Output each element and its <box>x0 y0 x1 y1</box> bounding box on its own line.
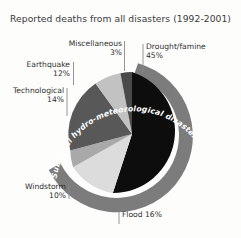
pie-chart: Sub-total hydro-meteorological disasters… <box>0 0 241 238</box>
label-windstorm-name: Windstorm <box>25 182 66 191</box>
pie-chart-svg: Sub-total hydro-meteorological disasters… <box>0 0 241 238</box>
label-windstorm-pct: 10% <box>4 192 66 201</box>
label-flood: Flood 16% <box>122 211 196 220</box>
label-earthquake: Earthquake 12% <box>8 61 70 78</box>
label-miscellaneous-pct: 3% <box>56 49 122 58</box>
label-earthquake-name: Earthquake <box>27 60 70 69</box>
label-earthquake-pct: 12% <box>8 70 70 79</box>
label-technological-name: Technological <box>13 86 64 95</box>
figure-root: Reported deaths from all disasters (1992… <box>0 0 241 238</box>
label-flood-text: Flood 16% <box>122 210 162 219</box>
label-miscellaneous: Miscellaneous 3% <box>56 40 122 57</box>
label-technological: Technological 14% <box>2 87 64 104</box>
label-miscellaneous-name: Miscellaneous <box>69 39 122 48</box>
label-drought-famine: Drought/famine 45% <box>146 43 224 60</box>
label-drought-famine-name: Drought/famine <box>146 42 206 51</box>
label-windstorm: Windstorm 10% <box>4 183 66 200</box>
pie-slices <box>68 72 175 193</box>
label-technological-pct: 14% <box>2 96 64 105</box>
label-drought-famine-pct: 45% <box>146 52 224 61</box>
